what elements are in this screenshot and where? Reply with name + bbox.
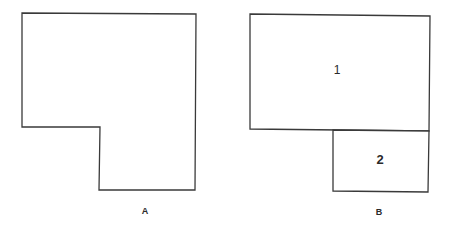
diagram-canvas — [0, 0, 450, 232]
figure-b-caption: B — [376, 208, 383, 217]
region-1-label: 1 — [334, 64, 341, 76]
figure-a-l-shape — [22, 13, 196, 190]
figure-a-caption: A — [142, 207, 149, 216]
region-2-label: 2 — [376, 153, 383, 166]
